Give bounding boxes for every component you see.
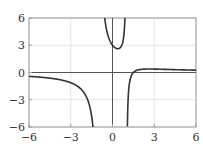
x-tick-label: 3 — [151, 131, 158, 144]
y-tick-label: 3 — [18, 39, 25, 52]
y-tick-label: 0 — [18, 67, 25, 80]
y-tick-label: −3 — [9, 94, 25, 107]
x-tick-label: 0 — [109, 131, 116, 144]
function-plot: −6−3036 −6−3036 — [0, 0, 203, 150]
function-curve — [127, 69, 196, 126]
function-curve — [29, 76, 93, 127]
x-tick-labels: −6−3036 — [21, 131, 200, 144]
y-tick-labels: −6−3036 — [9, 12, 25, 134]
x-tick-label: −3 — [63, 131, 79, 144]
y-tick-label: −6 — [9, 121, 25, 134]
x-tick-label: 6 — [193, 131, 200, 144]
axes — [29, 18, 196, 127]
y-tick-label: 6 — [18, 12, 25, 25]
